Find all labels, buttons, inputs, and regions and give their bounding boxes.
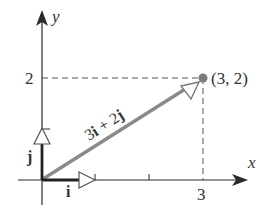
resultant-arrowhead-icon <box>181 82 199 99</box>
y-tick-label: 2 <box>25 69 34 88</box>
j-arrowhead-icon <box>34 128 50 144</box>
point-marker <box>199 74 208 83</box>
point-label: (3, 2) <box>211 69 248 88</box>
x-axis-label: x <box>247 153 256 172</box>
y-axis-label: y <box>50 7 60 26</box>
vector-diagram: y x 2 3 (3, 2) i j 3i + 2j <box>0 0 278 217</box>
j-vector-label: j <box>26 148 32 166</box>
x-tick-label: 3 <box>197 185 206 204</box>
resultant-vector <box>43 86 190 179</box>
i-vector-label: i <box>66 183 71 200</box>
i-arrowhead-icon <box>79 172 95 188</box>
